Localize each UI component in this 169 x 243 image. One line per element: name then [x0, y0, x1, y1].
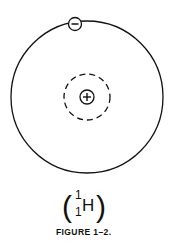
hydrogen-atom-diagram: ( 1 1 H ) FIGURE 1–2. [0, 0, 169, 243]
mass-number: 1 [75, 188, 82, 202]
proton [80, 90, 94, 104]
open-paren: ( [62, 190, 72, 223]
atomic-number: 1 [75, 205, 82, 219]
element-symbol: H [82, 196, 94, 215]
figure-caption: FIGURE 1–2. [56, 227, 111, 237]
close-paren: ) [96, 190, 106, 223]
electron [69, 18, 82, 31]
